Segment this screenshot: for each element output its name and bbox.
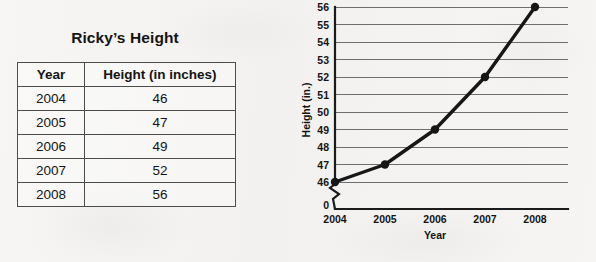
chart-gridlines: [335, 7, 568, 182]
cell-height: 52: [85, 159, 236, 183]
height-line-chart: 04647484950515253545556 2004200520062007…: [298, 0, 596, 262]
y-tick-label: 54: [317, 36, 329, 48]
cell-height: 47: [85, 111, 236, 135]
table-row: 2006 49: [18, 135, 236, 159]
y-tick-label: 48: [317, 141, 329, 153]
table-row: 2007 52: [18, 159, 236, 183]
x-tick-label: 2006: [423, 213, 447, 225]
x-tick-label: 2004: [323, 213, 347, 225]
y-tick-label: 51: [317, 89, 329, 101]
table-title: Ricky’s Height: [0, 29, 250, 47]
height-table-panel: Ricky’s Height Year Height (in inches) 2…: [0, 0, 298, 262]
table-row: 2008 56: [18, 183, 236, 207]
column-header-height: Height (in inches): [85, 63, 236, 87]
x-tick-label: 2007: [473, 213, 497, 225]
y-tick-label: 56: [317, 1, 329, 13]
x-tick-label: 2005: [373, 213, 397, 225]
column-header-year: Year: [18, 63, 85, 87]
y-tick-label: 55: [317, 19, 329, 31]
cell-year: 2006: [18, 135, 85, 159]
table-row: 2005 47: [18, 111, 236, 135]
data-point-marker: [431, 125, 439, 133]
table-row: 2004 46: [18, 87, 236, 111]
x-axis-tick-labels: 20042005200620072008: [323, 213, 547, 225]
y-tick-label: 52: [317, 71, 329, 83]
y-axis-tick-labels: 04647484950515253545556: [317, 1, 329, 211]
data-point-marker: [531, 3, 539, 11]
y-tick-label: 49: [317, 124, 329, 136]
y-axis-title: Height (in.): [300, 83, 312, 138]
y-tick-label: 46: [317, 176, 329, 188]
x-tick-label: 2008: [523, 213, 547, 225]
data-point-marker: [481, 73, 489, 81]
y-tick-label: 50: [317, 106, 329, 118]
y-tick-label-0: 0: [323, 199, 329, 211]
cell-height: 46: [85, 87, 236, 111]
height-data-table: Year Height (in inches) 2004 46 2005 47 …: [17, 62, 236, 207]
table-header-row: Year Height (in inches): [18, 63, 236, 87]
cell-height: 49: [85, 135, 236, 159]
cell-year: 2004: [18, 87, 85, 111]
cell-year: 2005: [18, 111, 85, 135]
cell-year: 2007: [18, 159, 85, 183]
data-point-marker: [381, 160, 389, 168]
data-point-marker: [331, 178, 339, 186]
cell-year: 2008: [18, 183, 85, 207]
height-line-chart-panel: 04647484950515253545556 2004200520062007…: [298, 0, 596, 262]
cell-height: 56: [85, 183, 236, 207]
y-axis-break-symbol: [330, 184, 339, 209]
y-tick-label: 47: [317, 159, 329, 171]
y-tick-label: 53: [317, 54, 329, 66]
x-axis-title: Year: [424, 229, 446, 241]
